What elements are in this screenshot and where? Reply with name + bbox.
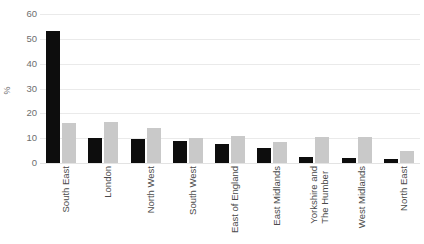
bar [104,122,118,163]
y-axis-title: % [0,78,14,102]
bar-group [293,14,335,163]
bar-group [167,14,209,163]
x-axis-label: London [103,166,114,198]
x-axis-label: South East [61,166,72,212]
plot-area [40,14,420,163]
bar [173,141,187,163]
x-axis-label-line: West Midlands [357,166,368,228]
bar [88,138,102,163]
x-label-cell: East of England [209,166,251,244]
y-tick-label-60: 60 [26,9,37,19]
x-label-cell: East Midlands [251,166,293,244]
x-label-cell: South West [167,166,209,244]
x-axis-label: South West [188,166,199,215]
x-axis-label: North West [146,166,157,213]
bar [257,148,271,163]
bar [189,138,203,163]
bar-group [336,14,378,163]
x-axis-label-line: South West [188,166,199,215]
bar [299,157,313,163]
gridline-0 [40,163,420,164]
x-axis-label: East of England [230,166,241,233]
x-label-cell: North West [124,166,166,244]
x-label-cell: West Midlands [336,166,378,244]
y-axis-tick-labels: 0102030405060 [14,0,40,175]
x-axis-label-line: North East [399,166,410,211]
bar [147,128,161,163]
x-axis-label-line: North West [146,166,157,213]
bar [273,142,287,163]
bar [384,159,398,163]
bar [315,137,329,163]
bar-chart: % 0102030405060 South EastLondonNorth We… [0,0,424,244]
x-axis-label-line: East of England [230,166,241,233]
x-axis-label: Yorkshire andThe Humber [309,166,330,224]
bar [46,31,60,163]
bar-group [82,14,124,163]
x-axis-label: East Midlands [272,166,283,226]
x-axis-label-line: East Midlands [272,166,283,226]
y-tick-label-40: 40 [26,59,37,69]
bar [342,158,356,163]
y-axis-title-text: % [2,86,11,94]
bar-group [40,14,82,163]
y-tick-label-50: 50 [26,34,37,44]
bar-group [124,14,166,163]
bar-group [378,14,420,163]
bar [131,139,145,163]
bar [62,123,76,163]
y-tick-label-10: 10 [26,133,37,143]
x-label-cell: North East [378,166,420,244]
y-tick-label-30: 30 [26,84,37,94]
x-axis-label-line: London [103,166,114,198]
x-axis-label-line: South East [61,166,72,212]
x-axis-label: North East [399,166,410,211]
x-label-cell: South East [40,166,82,244]
bar [358,137,372,163]
x-label-cell: Yorkshire andThe Humber [293,166,335,244]
bar [400,151,414,163]
x-axis-label: West Midlands [357,166,368,228]
bar-group [251,14,293,163]
x-label-cell: London [82,166,124,244]
y-tick-label-0: 0 [32,158,37,168]
bars-layer [40,14,420,163]
bar [215,144,229,163]
y-tick-label-20: 20 [26,109,37,119]
bar-group [209,14,251,163]
x-axis-label-line: The Humber [320,166,331,224]
x-axis-category-labels: South EastLondonNorth WestSouth WestEast… [40,166,420,244]
bar [231,136,245,163]
